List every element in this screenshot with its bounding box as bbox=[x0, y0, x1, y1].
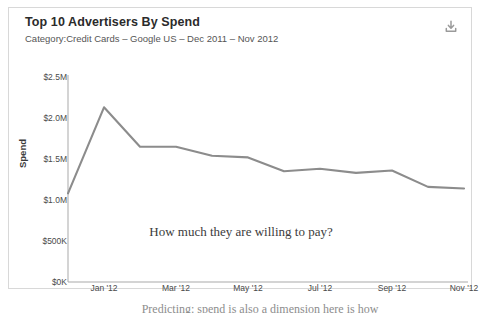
line-chart-svg bbox=[9, 8, 473, 290]
plot-area: Spend $0K$500K$1.0M$1.5M$2.0M$2.5M Jan '… bbox=[9, 8, 473, 290]
cutoff-caption: Predicting: spend is also a dimension he… bbox=[120, 302, 400, 313]
chart-annotation: How much they are willing to pay? bbox=[9, 224, 473, 240]
spend-series-line bbox=[68, 107, 464, 193]
chart-card: Top 10 Advertisers By Spend Category:Cre… bbox=[8, 7, 472, 289]
